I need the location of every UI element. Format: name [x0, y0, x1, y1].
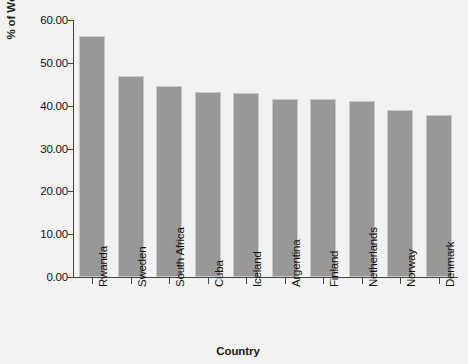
- x-tick-mark: [439, 278, 440, 284]
- bar: [79, 36, 105, 277]
- y-tick-mark: [68, 234, 74, 235]
- y-tick-mark: [68, 20, 74, 21]
- y-tick-mark: [68, 63, 74, 64]
- x-tick-mark: [246, 278, 247, 284]
- x-axis-title-text: Country: [216, 345, 259, 357]
- x-tick-mark: [208, 278, 209, 284]
- y-tick-label: 20.00: [20, 185, 68, 197]
- bar: [233, 93, 259, 277]
- x-tick-mark: [362, 278, 363, 284]
- bar-chart: % of Women in the parliament 0.0010.0020…: [0, 0, 468, 364]
- y-tick-mark: [68, 191, 74, 192]
- y-tick-mark: [68, 106, 74, 107]
- x-tick-label: Finland: [328, 251, 340, 287]
- x-tick-label: Netherlands: [367, 227, 379, 287]
- y-tick-label: 50.00: [20, 57, 68, 69]
- x-tick-mark: [131, 278, 132, 284]
- x-tick-mark: [400, 278, 401, 284]
- x-tick-label: Iceland: [251, 251, 263, 287]
- x-tick-mark: [92, 278, 93, 284]
- x-tick-label: Denmark: [444, 242, 456, 287]
- x-tick-label: Rwanda: [97, 246, 109, 287]
- x-tick-mark: [169, 278, 170, 284]
- y-tick-label: 10.00: [20, 228, 68, 240]
- y-axis-tick-labels: 0.0010.0020.0030.0040.0050.0060.00: [14, 0, 68, 364]
- x-tick-mark: [285, 278, 286, 284]
- x-tick-label: Sweden: [136, 247, 148, 287]
- x-tick-label: Cuba: [213, 260, 225, 287]
- y-tick-label: 30.00: [20, 143, 68, 155]
- y-tick-mark: [68, 277, 74, 278]
- y-tick-label: 40.00: [20, 100, 68, 112]
- y-tick-label: 60.00: [20, 14, 68, 26]
- x-tick-label: Norway: [405, 249, 417, 287]
- y-tick-label: 0.00: [20, 271, 68, 283]
- y-tick-mark: [68, 149, 74, 150]
- bar: [195, 92, 221, 277]
- x-tick-label: South Africa: [174, 227, 186, 287]
- x-tick-mark: [323, 278, 324, 284]
- x-tick-label: Argentina: [290, 240, 302, 287]
- x-axis-title: Country: [0, 345, 468, 357]
